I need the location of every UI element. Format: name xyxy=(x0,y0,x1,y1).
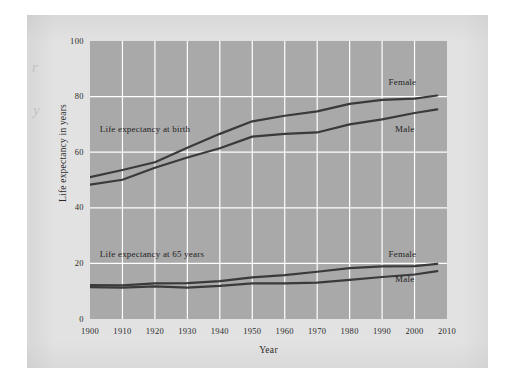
y-tick-label: 100 xyxy=(58,36,84,46)
x-tick-label: 1920 xyxy=(138,326,172,336)
annotation-female: Female xyxy=(389,77,417,87)
y-axis-title: Life expectancy in years xyxy=(58,73,68,233)
x-tick-label: 1910 xyxy=(105,326,139,336)
x-tick-label: 2000 xyxy=(398,326,432,336)
y-tick-label: 0 xyxy=(58,314,84,324)
x-tick-label: 2010 xyxy=(430,326,464,336)
line-chart: 020406080100 190019101920193019401950196… xyxy=(27,15,488,368)
x-tick-label: 1990 xyxy=(365,326,399,336)
x-tick-label: 1930 xyxy=(170,326,204,336)
series-line-2 xyxy=(90,264,437,285)
annotation-life-expectancy-at-birth: Life expectancy at birth xyxy=(100,124,191,134)
x-tick-label: 1900 xyxy=(73,326,107,336)
series-line-1 xyxy=(90,109,437,184)
annotation-life-expectancy-at-65-years: Life expectancy at 65 years xyxy=(100,249,204,259)
x-axis-title: Year xyxy=(90,345,447,355)
annotation-female: Female xyxy=(389,249,417,259)
x-tick-label: 1980 xyxy=(333,326,367,336)
annotation-male: Male xyxy=(395,274,414,284)
x-tick-label: 1960 xyxy=(268,326,302,336)
x-tick-label: 1950 xyxy=(235,326,269,336)
figure-panel: r y 020406080100 19001910192019301940195… xyxy=(27,15,488,368)
annotation-male: Male xyxy=(395,124,414,134)
x-tick-label: 1940 xyxy=(203,326,237,336)
x-tick-label: 1970 xyxy=(300,326,334,336)
y-tick-label: 20 xyxy=(58,258,84,268)
